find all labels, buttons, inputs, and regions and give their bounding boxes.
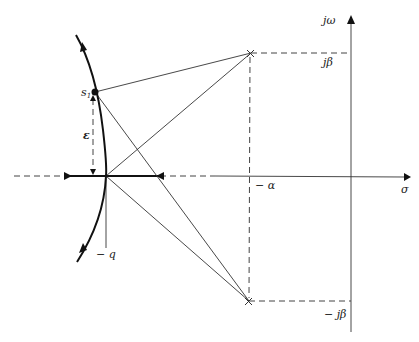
arrow-right-icon (64, 172, 72, 180)
epsilon-arrow-down-icon (90, 169, 96, 175)
locus-arrow-down-icon (79, 243, 87, 253)
epsilon-label: ε (83, 129, 90, 142)
jw-label: jω (320, 14, 335, 27)
jw-axis-arrow-icon (347, 15, 355, 24)
root-locus-branch (76, 35, 106, 262)
neg-q-label: − q (96, 248, 116, 261)
pole-vertical-projection (249, 57, 250, 298)
imaginary-axis (347, 15, 355, 332)
neg-alpha-label: − α (255, 179, 276, 192)
jbeta-label: jβ (320, 56, 333, 69)
real-axis (14, 172, 411, 181)
s1-label: s1 (81, 86, 91, 100)
vector-lower-pole-to-s1 (95, 92, 249, 301)
sigma-label: σ (401, 183, 409, 196)
vector-lower-pole-to-q (106, 176, 249, 301)
root-locus-diagram: σ jω jβ − jβ − α − q s1 ε (0, 0, 419, 342)
s1-point (92, 89, 99, 96)
neg-jbeta-label: − jβ (324, 308, 346, 321)
sigma-axis-arrow-icon (404, 173, 411, 181)
